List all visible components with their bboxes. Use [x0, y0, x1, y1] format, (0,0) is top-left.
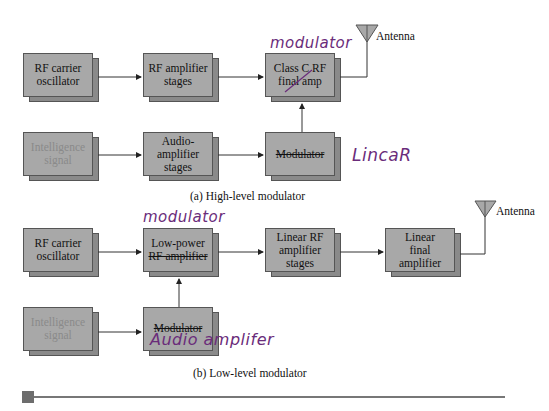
block-text: amplifier [399, 257, 441, 269]
block-text: RF amplifier [148, 62, 207, 74]
block-text: stages [164, 75, 192, 87]
block-a-intelligence-signal: Intelligencesignal [23, 132, 93, 176]
block-text: final [409, 244, 430, 256]
block-text: amplifier [279, 244, 321, 256]
block-text: RF carrier [35, 237, 82, 249]
block-text: final amp [278, 75, 322, 87]
handwritten-annotation-modulator-b: modulator [143, 208, 225, 226]
block-text: Intelligence [31, 316, 85, 328]
block-text: Class C RF [274, 62, 326, 74]
antenna-icon [356, 25, 378, 42]
block-b-low-power-rf-amplifier: Low-powerRF amplifier [143, 228, 213, 272]
block-text: Low-power [151, 237, 205, 249]
block-text: Modulator [276, 148, 325, 161]
antenna-icon [475, 201, 496, 217]
block-b-rf-carrier-oscillator: RF carrieroscillator [23, 228, 93, 272]
block-text: oscillator [37, 250, 80, 262]
caption-b: (b) Low-level modulator [193, 367, 307, 379]
block-text: amplifier [157, 148, 199, 160]
block-text: RF amplifier [148, 250, 207, 262]
block-b-intelligence-signal: Intelligencesignal [23, 307, 93, 351]
block-text: signal [44, 154, 71, 166]
handwritten-annotation-linear: LincaR [352, 145, 412, 165]
block-b-linear-rf-amplifier-stages: Linear RFamplifierstages [265, 228, 335, 272]
block-a-rf-amplifier-stages: RF amplifierstages [143, 53, 213, 97]
block-a-rf-carrier-oscillator: RF carrieroscillator [23, 53, 93, 97]
caption-a: (a) High-level modulator [190, 190, 305, 202]
block-a-modulator: Modulator [265, 132, 335, 176]
block-text: Linear RF [277, 231, 324, 243]
antenna-label-a: Antenna [376, 30, 415, 42]
block-text: signal [44, 329, 71, 341]
block-a-class-c-final-amp: Class C RFfinal amp [265, 53, 335, 97]
handwritten-annotation-modulator-a: modulator [270, 34, 352, 52]
handwritten-annotation-audio-amplifier: Audio amplifer [150, 330, 274, 349]
section-rule-marker [22, 391, 34, 403]
antenna-label-b: Antenna [496, 205, 535, 217]
block-text: RF carrier [35, 62, 82, 74]
block-text: stages [286, 257, 314, 269]
block-text: Linear [405, 231, 435, 243]
block-a-audio-amplifier-stages: Audio-amplifierstages [143, 132, 213, 176]
block-b-linear-final-amplifier: Linearfinalamplifier [385, 228, 455, 272]
section-rule [34, 396, 505, 398]
block-text: oscillator [37, 75, 80, 87]
block-text: Audio- [162, 135, 195, 147]
block-text: Intelligence [31, 141, 85, 153]
block-text: stages [164, 161, 192, 173]
